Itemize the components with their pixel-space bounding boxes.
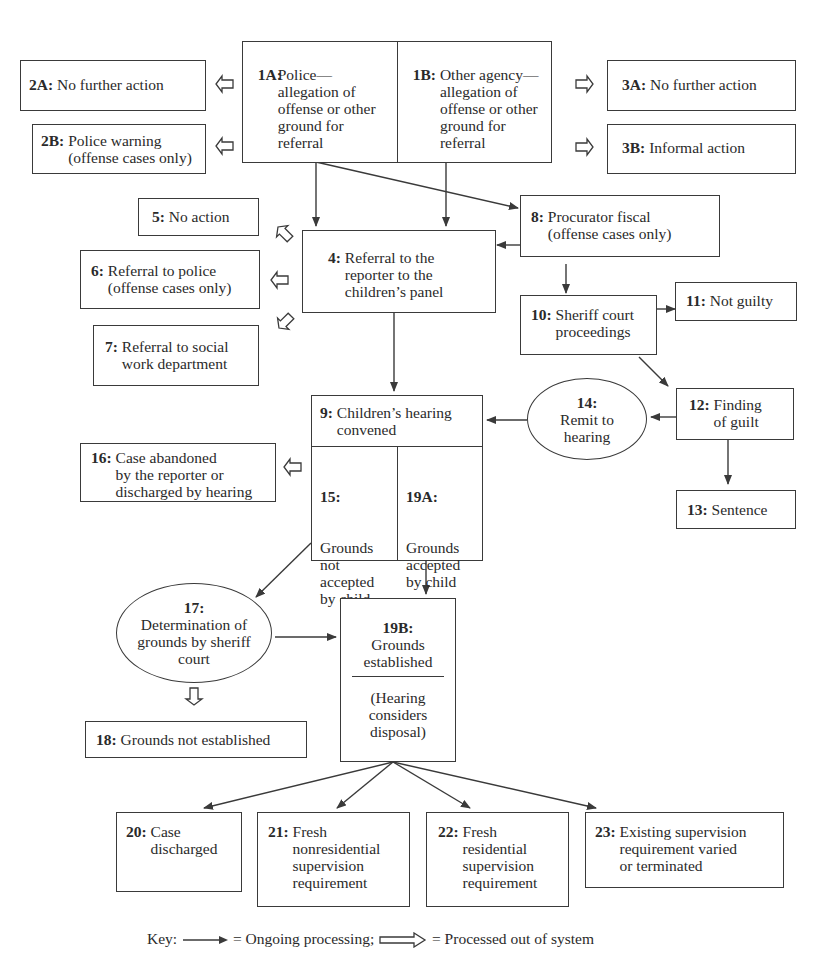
legend: Key: = Ongoing processing; = Processed o… bbox=[147, 930, 594, 948]
node-23: 23: Existing supervision requirement var… bbox=[585, 812, 784, 888]
node-18-number: 18: bbox=[96, 731, 117, 748]
node-3A-number: 3A: bbox=[622, 76, 646, 93]
node-6-description: Referral to police (offense cases only) bbox=[108, 262, 232, 296]
node-5: 5: No action bbox=[138, 198, 259, 236]
node-19B: 19B: Grounds established (Hearing consid… bbox=[340, 598, 456, 762]
node-2A: 2A: No further action bbox=[20, 60, 206, 111]
node-4-number: 4: bbox=[328, 249, 341, 266]
node-20-description: Case discharged bbox=[151, 823, 218, 857]
node-8-description: Procurator fiscal (offense cases only) bbox=[548, 208, 672, 242]
node-18: 18: Grounds not established bbox=[85, 721, 307, 758]
node-22-description: Fresh residential supervision requiremen… bbox=[463, 823, 538, 891]
node-9-number: 9: bbox=[320, 404, 333, 421]
node-10: 10: Sheriff court proceedings bbox=[520, 295, 657, 355]
node-11: 11: Not guilty bbox=[675, 282, 797, 321]
node-13: 13: Sentence bbox=[676, 490, 796, 529]
node-10-number: 10: bbox=[531, 306, 552, 323]
node-5-number: 5: bbox=[152, 208, 165, 225]
node-14-description: Remit to hearing bbox=[560, 411, 614, 445]
node-7-description: Referral to social work department bbox=[122, 338, 229, 372]
solid-arrow-icon bbox=[181, 934, 229, 946]
node-8-number: 8: bbox=[531, 208, 544, 225]
node-6: 6: Referral to police (offense cases onl… bbox=[80, 250, 260, 309]
node-21: 21: Fresh nonresidential supervision req… bbox=[257, 812, 410, 907]
divider bbox=[352, 676, 444, 677]
node-17-description: Determination of grounds by sheriff cour… bbox=[137, 616, 250, 667]
node-12-number: 12: bbox=[689, 396, 710, 413]
node-13-description: Sentence bbox=[712, 501, 768, 518]
node-3B: 3B: Informal action bbox=[607, 124, 796, 174]
node-3B-description: Informal action bbox=[649, 139, 745, 156]
node-7-number: 7: bbox=[105, 338, 118, 355]
node-13-number: 13: bbox=[687, 501, 708, 518]
node-15-number: 15: bbox=[320, 488, 374, 505]
node-3A-description: No further action bbox=[650, 76, 757, 93]
node-1A-description: Police— allegation of offense or other g… bbox=[278, 66, 376, 151]
node-17-number: 17: bbox=[184, 599, 205, 616]
node-2A-description: No further action bbox=[57, 76, 164, 93]
node-2A-number: 2A: bbox=[29, 76, 53, 93]
node-2B-description: Police warning (offense cases only) bbox=[68, 132, 192, 166]
node-16-description: Case abandoned by the reporter or discha… bbox=[116, 449, 253, 500]
node-12-description: Finding of guilt bbox=[714, 396, 762, 430]
node-11-number: 11: bbox=[686, 292, 706, 309]
node-10-description: Sheriff court proceedings bbox=[556, 306, 634, 340]
node-4: 4: Referral to the reporter to the child… bbox=[302, 230, 496, 313]
node-12: 12: Finding of guilt bbox=[676, 388, 794, 440]
node-14-number: 14: bbox=[577, 394, 598, 411]
node-20-number: 20: bbox=[126, 823, 147, 840]
node-21-description: Fresh nonresidential supervision require… bbox=[293, 823, 381, 891]
node-2B: 2B: Police warning (offense cases only) bbox=[32, 124, 206, 174]
node-8: 8: Procurator fiscal (offense cases only… bbox=[520, 195, 720, 257]
node-15-description: Grounds not accepted by child bbox=[320, 539, 374, 607]
node-19B-subtext: (Hearing considers disposal) bbox=[341, 689, 455, 740]
node-16-number: 16: bbox=[91, 449, 112, 466]
node-23-number: 23: bbox=[595, 823, 616, 840]
node-19B-number: 19B: bbox=[341, 619, 455, 636]
node-19A-description: Grounds accepted by child bbox=[406, 539, 460, 590]
node-23-description: Existing supervision requirement varied … bbox=[620, 823, 747, 874]
node-1B-label: 1B: Other agency— allegation of offense … bbox=[405, 49, 550, 151]
node-3B-number: 3B: bbox=[622, 139, 645, 156]
node-5-description: No action bbox=[169, 208, 230, 225]
node-2B-number: 2B: bbox=[41, 132, 64, 149]
legend-out: = Processed out of system bbox=[432, 930, 594, 947]
node-21-number: 21: bbox=[268, 823, 289, 840]
node-22: 22: Fresh residential supervision requir… bbox=[426, 812, 569, 907]
node-1B-number: 1B: bbox=[413, 66, 436, 83]
legend-ongoing: = Ongoing processing; bbox=[233, 930, 374, 947]
node-19B-upper: 19B: Grounds established bbox=[341, 619, 455, 670]
node-22-number: 22: bbox=[438, 823, 459, 840]
node-16: 16: Case abandoned by the reporter or di… bbox=[80, 443, 276, 502]
node-7: 7: Referral to social work department bbox=[93, 325, 259, 386]
node-11-description: Not guilty bbox=[710, 292, 773, 309]
divider bbox=[397, 446, 398, 560]
legend-label: Key: bbox=[147, 930, 177, 947]
node-9: 9: Children’s hearing convened 15: Groun… bbox=[311, 395, 483, 561]
node-17: 17: Determination of grounds by sheriff … bbox=[116, 583, 272, 683]
node-4-description: Referral to the reporter to the children… bbox=[345, 249, 444, 300]
node-19B-description: Grounds established bbox=[341, 636, 455, 670]
hollow-arrow-icon bbox=[378, 932, 428, 948]
node-19A-number: 19A: bbox=[406, 488, 460, 505]
node-3A: 3A: No further action bbox=[607, 60, 796, 111]
node-20: 20: Case discharged bbox=[116, 812, 242, 892]
node-6-number: 6: bbox=[91, 262, 104, 279]
node-18-description: Grounds not established bbox=[121, 731, 271, 748]
node-1B-description: Other agency— allegation of offense or o… bbox=[440, 66, 539, 151]
node-9-description: Children’s hearing convened bbox=[337, 404, 452, 438]
node-14: 14: Remit to hearing bbox=[527, 378, 647, 460]
node-1A-label: 1A: Police— allegation of offense or oth… bbox=[250, 49, 395, 151]
